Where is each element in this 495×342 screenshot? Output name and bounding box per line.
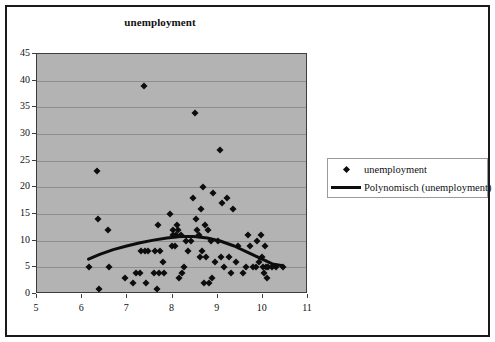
data-point: [185, 248, 192, 255]
data-point: [219, 200, 226, 207]
data-point: [197, 205, 204, 212]
data-point: [218, 253, 225, 260]
line-swatch-icon: [328, 186, 364, 189]
x-axis-tick-label: 7: [114, 302, 138, 313]
data-point: [203, 253, 210, 260]
y-axis-tick-mark: [32, 186, 36, 187]
data-point: [232, 258, 239, 265]
y-axis-tick-label: 30: [2, 128, 30, 138]
data-point: [262, 242, 269, 249]
data-point: [228, 269, 235, 276]
x-axis-tick-mark: [81, 294, 82, 298]
data-point: [93, 168, 100, 175]
gridline: [37, 81, 306, 82]
data-point: [154, 221, 161, 228]
data-point: [225, 253, 232, 260]
data-point: [154, 285, 161, 292]
data-point: [96, 285, 103, 292]
y-axis-tick-mark: [32, 240, 36, 241]
x-axis-tick-label: 10: [250, 302, 274, 313]
y-axis-tick-mark: [32, 160, 36, 161]
data-point: [214, 237, 221, 244]
diamond-marker-icon: [328, 167, 364, 172]
legend-item-trendline: Polynomisch (unemployment): [328, 178, 487, 197]
data-point: [230, 205, 237, 212]
x-axis-tick-label: 11: [295, 302, 319, 313]
legend-label-series: unemployment: [364, 164, 427, 175]
data-point: [195, 232, 202, 239]
data-point: [247, 242, 254, 249]
data-point: [280, 264, 287, 271]
x-axis-tick-mark: [36, 294, 37, 298]
data-point: [245, 232, 252, 239]
data-point: [122, 274, 129, 281]
y-axis-tick-mark: [32, 133, 36, 134]
x-axis-tick-mark: [217, 294, 218, 298]
y-axis-tick-label: 20: [2, 181, 30, 191]
data-point: [189, 194, 196, 201]
x-axis-tick-label: 6: [69, 302, 93, 313]
legend-item-unemployment: unemployment: [328, 160, 487, 179]
plot-area: [36, 53, 307, 293]
data-point: [156, 248, 163, 255]
y-axis-tick-mark: [32, 213, 36, 214]
x-axis-tick-mark: [172, 294, 173, 298]
data-point: [106, 264, 113, 271]
data-point: [216, 146, 223, 153]
y-axis-tick-mark: [32, 80, 36, 81]
y-axis-tick-label: 35: [2, 101, 30, 111]
y-axis-tick-mark: [32, 53, 36, 54]
y-axis-tick-label: 15: [2, 208, 30, 218]
x-axis-tick-label: 8: [160, 302, 184, 313]
y-axis-tick-label: 10: [2, 235, 30, 245]
data-point: [234, 242, 241, 249]
data-point: [204, 226, 211, 233]
legend-label-trendline: Polynomisch (unemployment): [364, 182, 491, 193]
x-axis-tick-mark: [307, 294, 308, 298]
data-point: [264, 274, 271, 281]
y-axis-tick-label: 25: [2, 155, 30, 165]
data-point: [94, 216, 101, 223]
data-point: [221, 264, 228, 271]
y-axis-tick-mark: [32, 106, 36, 107]
data-point: [192, 109, 199, 116]
x-axis-tick-label: 5: [24, 302, 48, 313]
x-axis-tick-mark: [262, 294, 263, 298]
y-axis-tick-label: 40: [2, 75, 30, 85]
chart-legend: unemployment Polynomisch (unemployment): [327, 158, 488, 198]
data-point: [85, 264, 92, 271]
y-axis-tick-label: 0: [2, 288, 30, 298]
x-axis-tick-mark: [126, 294, 127, 298]
y-axis-tick-mark: [32, 266, 36, 267]
chart-figure: unemployment unemployment Polynomisch (u…: [0, 0, 495, 342]
y-axis-tick-label: 5: [2, 261, 30, 271]
gridline: [37, 107, 306, 108]
data-point: [167, 210, 174, 217]
gridline: [37, 134, 306, 135]
data-point: [129, 280, 136, 287]
y-axis-tick-label: 45: [2, 48, 30, 58]
data-point: [223, 194, 230, 201]
gridline: [37, 187, 306, 188]
data-point: [210, 189, 217, 196]
data-point: [212, 258, 219, 265]
chart-title: unemployment: [0, 16, 320, 28]
data-point: [192, 216, 199, 223]
gridline: [37, 161, 306, 162]
data-point: [141, 82, 148, 89]
data-point: [161, 269, 168, 276]
data-point: [105, 226, 112, 233]
data-point: [159, 258, 166, 265]
x-axis-tick-label: 9: [205, 302, 229, 313]
data-point: [187, 237, 194, 244]
data-point: [143, 280, 150, 287]
data-point: [136, 269, 143, 276]
data-point: [177, 232, 184, 239]
data-point: [200, 184, 207, 191]
